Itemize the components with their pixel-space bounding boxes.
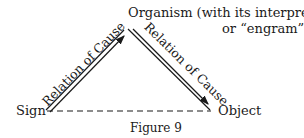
figure: Organism (with its interpretant or “engr… bbox=[0, 0, 304, 138]
caption: Figure 9 bbox=[130, 122, 182, 134]
node-sign: Sign bbox=[16, 104, 46, 117]
node-organism: Organism (with its interpretant bbox=[128, 6, 304, 19]
node-organism-subtitle: or “engram”) bbox=[222, 22, 304, 35]
node-object: Object bbox=[218, 104, 261, 117]
